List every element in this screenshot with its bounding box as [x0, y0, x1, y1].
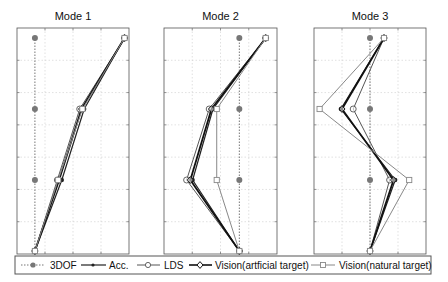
panel-title: Mode 2 [202, 10, 239, 22]
panel-mode-1: Mode 1 [17, 10, 129, 254]
panel-mode-3: Mode 3 [314, 10, 426, 254]
filled-circle-marker-icon [30, 262, 35, 267]
legend: 3DOF Acc. LDS Vision(artficial target) V… [15, 256, 432, 274]
panel-mode-2: Mode 2 [164, 10, 277, 254]
panel-title: Mode 3 [352, 10, 389, 22]
panel-title: Mode 1 [55, 10, 92, 22]
open-square-marker-icon [321, 263, 326, 268]
legend-label-3dof: 3DOF [50, 260, 77, 271]
legend-label-vision-natural: Vision(natural target) [339, 260, 432, 271]
mode-shape-chart: Mode 1Mode 2Mode 3 3DOF Acc. LDS Vision(… [0, 0, 448, 282]
small-dot-marker-icon [91, 263, 94, 266]
open-circle-marker-icon [145, 262, 150, 267]
legend-label-lds: LDS [164, 260, 184, 271]
legend-label-vision-artificial: Vision(artficial target) [215, 260, 309, 271]
legend-label-acc: Acc. [109, 260, 128, 271]
